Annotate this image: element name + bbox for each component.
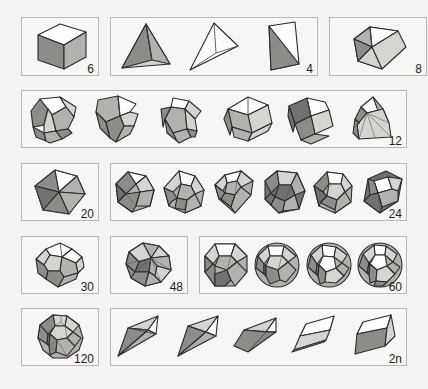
pyritohedron-a-icon [90,92,148,146]
pentagonal-icositetrahedron-icon [261,167,309,217]
octahedron-icon [348,21,410,73]
shape-cell-pentagonal-icositetrahedron [260,164,310,220]
shape-cell-tetrahedron-shaded [111,18,182,75]
group-60-shapes [200,237,406,293]
group-faces-30[interactable]: 30 [21,236,99,294]
shape-cell-triakis-octahedron [210,164,260,220]
figure-row-2: 12 [21,90,407,148]
deltoidal-icositetrahedron-icon [161,168,209,216]
group-faces-120[interactable]: 120 [21,308,99,366]
group-label-2n: 2n [389,353,402,365]
group-label-12: 12 [389,135,402,147]
rhombic-dodecahedron-icon [218,93,278,145]
shape-cell-bipyramid-b [169,309,227,365]
group-faces-48[interactable]: 48 [110,236,188,294]
deltoidal-hexecontahedron-icon [252,240,302,290]
group-faces-2n[interactable]: 2n [110,308,407,366]
shape-cell-rhombic-dodecahedron-b [281,91,345,147]
shape-cell-rhombic-dodecahedron [215,91,281,147]
group-label-48: 48 [170,281,183,293]
shape-cell-tetrahedron-outline [182,18,249,75]
group-12-shapes [22,91,406,147]
group-label-60: 60 [389,281,402,293]
group-2n-shapes [111,309,406,365]
rhombohedron-a-icon [286,312,342,362]
shape-cell-tetrakis-hexahedron [111,164,161,220]
group-faces-8[interactable]: 8 [329,17,427,76]
shape-cell-trapezohedron-24 [309,164,359,220]
group-24-shapes [111,164,406,220]
group-4-shapes [111,18,317,75]
group-label-24: 24 [389,208,402,220]
group-label-6: 6 [87,63,94,75]
group-faces-20[interactable]: 20 [21,163,99,221]
group-label-30: 30 [81,281,94,293]
tetrahedron-shaded-icon [116,20,178,74]
figure-row-3: 20 [21,163,407,221]
rhombic-dodecahedron-b-icon [283,92,341,146]
dodecahedron-icon [26,93,84,145]
trapezohedron-24-icon [311,168,357,216]
tetrahedron-flattened-icon [255,20,311,74]
tetrakis-hexahedron-icon [112,168,160,216]
polyhedra-figure: 6 [0,0,428,389]
shape-cell-deltoidal-hexecontahedron [252,237,304,293]
shape-cell-pentakis-dodecahedron [200,237,252,293]
shape-cell-bipyramid-a [111,309,169,365]
figure-row-1: 6 [21,17,427,76]
group-label-120: 120 [74,353,94,365]
pentagonal-hexecontahedron-icon [304,240,354,290]
pyritohedron-b-icon [155,93,211,145]
shape-cell-rhombohedron-a [285,309,343,365]
group-faces-24[interactable]: 24 [110,163,407,221]
shape-cell-pyritohedron-a [88,91,152,147]
pentakis-dodecahedron-icon [201,240,251,290]
shape-cell-deltoidal-icositetrahedron [161,164,211,220]
shape-cell-dodecahedron [22,91,88,147]
group-faces-4[interactable]: 4 [110,17,318,76]
group-faces-6[interactable]: 6 [21,17,99,76]
group-label-8: 8 [415,63,422,75]
triakis-octahedron-icon [211,167,259,217]
bipyramid-c-icon [228,312,284,362]
shape-cell-pentagonal-hexecontahedron [303,237,355,293]
figure-row-4: 30 [21,236,407,294]
bipyramid-a-icon [112,312,168,362]
group-label-4: 4 [306,63,313,75]
group-label-20: 20 [81,208,94,220]
figure-row-5: 120 [21,308,407,366]
tetrahedron-outline-icon [186,20,246,74]
shape-cell-octahedron [330,18,428,75]
cube-icon [30,21,92,73]
group-faces-60[interactable]: 60 [199,236,407,294]
shape-cell-pyritohedron-b [151,91,215,147]
group-faces-12[interactable]: 12 [21,90,407,148]
bipyramid-b-icon [170,312,226,362]
shape-cell-bipyramid-c [227,309,285,365]
